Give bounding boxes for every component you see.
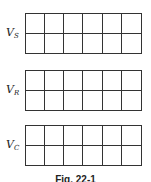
grid-cell: [122, 91, 141, 111]
grid-cell: [103, 14, 122, 34]
grid-cell: [26, 71, 45, 91]
grid-cell: [103, 146, 122, 166]
grid-cell: [83, 146, 102, 166]
grid-cell: [26, 14, 45, 34]
grid-cell: [26, 34, 45, 54]
grid-panel-vs: [25, 13, 142, 54]
grid-panel-vc: [25, 125, 142, 166]
grid-cell: [26, 146, 45, 166]
grid-cell: [103, 34, 122, 54]
label-main: V: [6, 83, 14, 96]
grid-cell: [64, 146, 83, 166]
grid-cell: [26, 91, 45, 111]
grid-cell: [103, 126, 122, 146]
grid-cell: [45, 34, 64, 54]
grid-cell: [45, 91, 64, 111]
grid-cell: [83, 126, 102, 146]
grid-cell: [64, 14, 83, 34]
grid-cell: [83, 14, 102, 34]
grid-cell: [103, 71, 122, 91]
grid-panel-vr: [25, 70, 142, 111]
grid-cell: [64, 91, 83, 111]
grid-cell: [103, 91, 122, 111]
grid-cell: [26, 126, 45, 146]
grid-cell: [45, 71, 64, 91]
label-vs: VS: [6, 26, 19, 40]
grid-cell: [83, 34, 102, 54]
grid-cell: [45, 126, 64, 146]
grid-cell: [64, 126, 83, 146]
label-sub: S: [14, 32, 19, 40]
grid-cell: [64, 71, 83, 91]
label-sub: R: [14, 89, 19, 97]
label-vc: VC: [6, 138, 19, 152]
label-main: V: [6, 138, 14, 151]
grid-cell: [45, 146, 64, 166]
label-vr: VR: [6, 83, 19, 97]
grid-cell: [83, 91, 102, 111]
grid-cell: [122, 146, 141, 166]
grid-cell: [45, 14, 64, 34]
grid-cell: [64, 34, 83, 54]
figure-caption: Fig. 22-1: [0, 174, 151, 182]
label-main: V: [6, 26, 14, 39]
grid-cell: [122, 14, 141, 34]
grid-cell: [83, 71, 102, 91]
label-sub: C: [14, 144, 19, 152]
grid-cell: [122, 71, 141, 91]
grid-cell: [122, 126, 141, 146]
grid-cell: [122, 34, 141, 54]
